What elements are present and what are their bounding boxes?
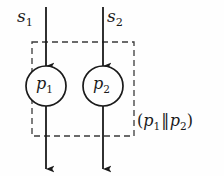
process-label-p1-base: p (36, 74, 46, 93)
composition-right-base: p (170, 111, 180, 130)
composition-close-paren: ) (187, 111, 193, 130)
input-label-s1: s1 (17, 8, 33, 29)
process-label-p1: p1 (36, 76, 53, 95)
composition-right-subscript: 2 (180, 120, 187, 132)
input-label-s1-subscript: 1 (26, 16, 33, 29)
process-label-p2-subscript: 2 (103, 83, 110, 95)
input-label-s2: s2 (107, 8, 123, 29)
input-label-s2-base: s (107, 6, 116, 26)
parallel-operator-icon: ‖ (160, 111, 170, 130)
input-label-s1-base: s (17, 6, 26, 26)
input-label-s2-subscript: 2 (116, 16, 123, 29)
composition-label: (p1‖p2) (137, 113, 193, 132)
composition-left-base: p (143, 111, 153, 130)
process-label-p2: p2 (93, 76, 110, 95)
process-label-p1-subscript: 1 (46, 83, 53, 95)
process-label-p2-base: p (93, 74, 103, 93)
parallel-composition-diagram: s1 s2 p1 p2 (p1‖p2) (0, 0, 224, 176)
